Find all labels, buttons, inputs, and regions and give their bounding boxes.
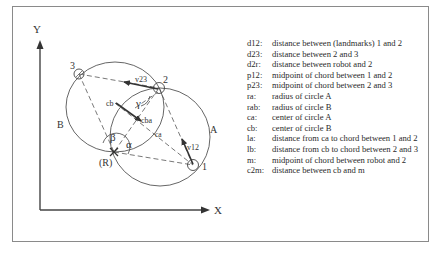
legend-item-p12: p12:midpoint of chord between 1 and 2: [247, 70, 437, 81]
v12-label: v12: [187, 143, 199, 152]
legend-item-lb: lb:distance from cb to chord between 2 a…: [247, 144, 437, 155]
v23-label: v23: [135, 75, 147, 84]
legend-item-ra: ra:radius of circle A: [247, 91, 437, 102]
cb-label: cb: [106, 99, 114, 108]
gamma-label: γ: [135, 97, 141, 109]
legend-item-p23: p23:midpoint of chord between 2 and 3: [247, 80, 437, 91]
landmark-3-label: 3: [70, 60, 75, 71]
legend-item-d12: d12:distance between (landmarks) 1 and 2: [247, 38, 437, 49]
alpha-label: α: [126, 138, 132, 150]
circle-a-label: A: [210, 124, 218, 135]
legend-item-cb: cb:center of circle B: [247, 123, 437, 134]
legend-item-d23: d23:distance between 2 and 3: [247, 49, 437, 60]
x-axis: [40, 207, 210, 214]
legend: d12:distance between (landmarks) 1 and 2…: [247, 38, 437, 176]
landmark-1-label: 1: [202, 161, 207, 172]
legend-item-ca: ca:center of circle A: [247, 112, 437, 123]
y-axis: [37, 40, 44, 210]
robot-label: (R): [99, 157, 112, 169]
ca-label: ca: [155, 130, 162, 139]
beta-label: β: [110, 131, 116, 143]
legend-item-rab: rab:radius of circle B: [247, 102, 437, 113]
chord-lines: [79, 74, 193, 165]
legend-item-la: la:distance from ca to chord between 1 a…: [247, 133, 437, 144]
legend-item-m: m:midpoint of chord between robot and 2: [247, 155, 437, 166]
y-axis-label: Y: [33, 23, 41, 35]
x-axis-label: X: [214, 204, 222, 216]
landmark-2-label: 2: [163, 74, 168, 85]
cba-label: cba: [141, 116, 153, 125]
legend-item-c2m: c2m:distance between cb and m: [247, 165, 437, 176]
circle-b-label: B: [57, 119, 64, 130]
legend-item-d2r: d2r:distance between robot and 2: [247, 59, 437, 70]
